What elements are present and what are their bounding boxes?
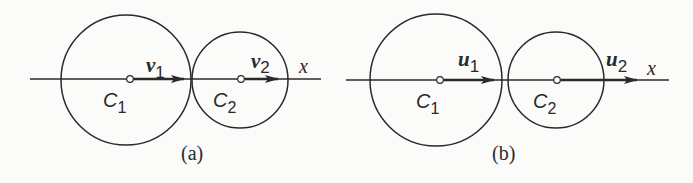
collision-diagram: v1 v2 x C1 C2 (a) u1 u2 x C1 C2 (b) (0, 0, 693, 183)
center-c2-dot (238, 76, 245, 83)
panel-b-caption: (b) (492, 142, 515, 165)
panel-a-caption: (a) (181, 142, 203, 165)
panel-b: u1 u2 x C1 C2 (b) (346, 14, 669, 165)
center-c1-dot (127, 76, 134, 83)
center-c2-dot (554, 77, 561, 84)
center-c1-label: C1 (416, 90, 439, 117)
vector-v1-label: v1 (146, 53, 165, 82)
x-axis-label: x (646, 57, 656, 79)
center-c2-label: C2 (533, 90, 556, 117)
center-c2-label: C2 (213, 89, 236, 116)
vector-v2-label: v2 (251, 49, 270, 77)
center-c1-dot (437, 77, 444, 84)
vector-u1-label: u1 (458, 47, 479, 76)
center-c1-label: C1 (103, 89, 126, 116)
vector-u2-label: u2 (606, 47, 627, 76)
diagram-canvas: v1 v2 x C1 C2 (a) u1 u2 x C1 C2 (b) (0, 0, 693, 183)
panel-a: v1 v2 x C1 C2 (a) (30, 15, 321, 165)
x-axis-label: x (298, 55, 308, 77)
